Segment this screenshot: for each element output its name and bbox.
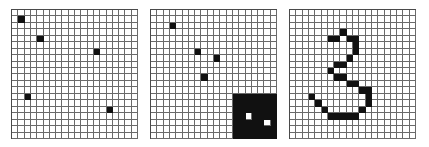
grid-panel-scattered [11,9,138,139]
grid-cell [410,133,416,139]
grid-panel-block [150,9,277,139]
grid-cell [132,133,138,139]
grid-panel-digit-three [289,9,416,139]
grid-cell-filled [271,133,277,139]
